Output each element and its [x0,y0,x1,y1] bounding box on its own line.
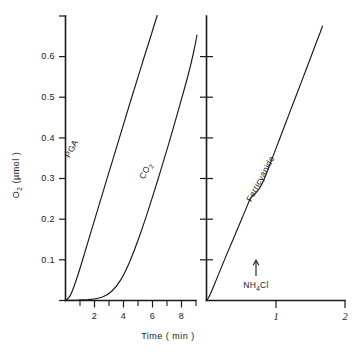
right-x-tick-label-1: 2 [342,311,348,322]
nh4cl-annotation-label: NH4Cl [243,280,268,292]
curve-label-co2: CO2 [137,161,155,182]
left-x-ticks [80,301,196,308]
y-axis-title: O2 (µmol ) [11,152,23,198]
svg-text:CO2: CO2 [137,161,155,182]
right-panel: 1 2 Ferricyanide NH4Cl [200,16,348,322]
x-axis-title: Time ( min ) [141,331,195,341]
right-x-tick-label-0: 1 [273,311,278,322]
left-x-tick-label-0: 2 [92,311,97,321]
left-y-tick-label-2: 0.3 [41,173,55,183]
curve-co2 [66,35,197,300]
left-y-tick-label-0: 0.1 [41,255,55,265]
curve-label-ferricyanide: Ferricyanide [244,154,276,203]
left-x-tick-label-3: 8 [179,311,184,321]
left-y-tick-label-3: 0.4 [41,133,55,143]
left-y-tick-label-5: 0.6 [41,51,55,61]
left-y-ticks [59,16,66,301]
curve-pga [66,16,157,301]
nh4cl-arrow-icon [253,260,259,276]
nh4cl-label-tail: Cl [260,280,269,290]
left-y-tick-label-1: 0.2 [41,214,55,224]
chart-svg: 0.1 0.2 0.3 0.4 0.5 0.6 O2 (µmol ) [0,0,356,355]
svg-text:Ferricyanide: Ferricyanide [244,154,276,203]
y-axis-title-main: O [11,191,21,199]
nh4cl-label-main: NH [243,280,256,290]
figure-container: 0.1 0.2 0.3 0.4 0.5 0.6 O2 (µmol ) [0,0,356,355]
right-x-ticks [276,301,345,309]
left-x-tick-label-2: 6 [150,311,155,321]
left-panel: 0.1 0.2 0.3 0.4 0.5 0.6 O2 (µmol ) [11,16,197,342]
left-x-tick-label-1: 4 [121,311,126,321]
left-y-tick-label-4: 0.5 [41,92,55,102]
y-axis-title-unit: (µmol ) [11,152,21,184]
svg-text:O2 (µmol ): O2 (µmol ) [11,152,23,198]
